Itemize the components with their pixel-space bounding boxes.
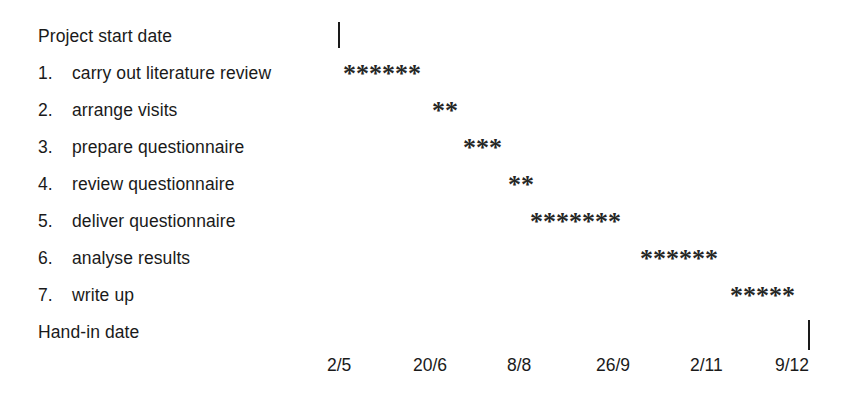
axis-tick-label-2: 20/6 bbox=[413, 352, 447, 378]
task-row-7: 7. write up ***** bbox=[0, 277, 859, 314]
task-bar-3: *** bbox=[463, 129, 502, 166]
task-label-3: prepare questionnaire bbox=[72, 129, 244, 166]
task-number-2: 2. bbox=[38, 92, 53, 129]
task-label-6: analyse results bbox=[72, 240, 190, 277]
axis-tick-label-1: 2/5 bbox=[327, 352, 351, 378]
hand-in-tick-icon bbox=[808, 320, 810, 350]
task-number-7: 7. bbox=[38, 277, 53, 314]
task-bar-1: ****** bbox=[343, 55, 421, 92]
task-bar-2: ** bbox=[432, 92, 458, 129]
hand-in-date-label: Hand-in date bbox=[38, 314, 139, 351]
task-row-6: 6. analyse results ****** bbox=[0, 240, 859, 277]
task-label-2: arrange visits bbox=[72, 92, 177, 129]
axis-tick-label-3: 8/8 bbox=[507, 352, 531, 378]
task-number-3: 3. bbox=[38, 129, 53, 166]
axis-tick-label-5: 2/11 bbox=[690, 352, 723, 378]
task-bar-5: ******* bbox=[530, 203, 621, 240]
task-row-5: 5. deliver questionnaire ******* bbox=[0, 203, 859, 240]
project-start-tick-icon bbox=[338, 22, 340, 48]
axis-tick-label-4: 26/9 bbox=[596, 352, 630, 378]
task-number-5: 5. bbox=[38, 203, 53, 240]
task-label-7: write up bbox=[72, 277, 134, 314]
task-label-1: carry out literature review bbox=[72, 55, 271, 92]
task-number-6: 6. bbox=[38, 240, 53, 277]
task-label-5: deliver questionnaire bbox=[72, 203, 236, 240]
task-label-4: review questionnaire bbox=[72, 166, 235, 203]
axis-tick-label-6: 9/12 bbox=[775, 352, 809, 378]
gantt-chart: Project start date 1. carry out literatu… bbox=[0, 0, 859, 400]
project-start-date-label: Project start date bbox=[38, 18, 172, 55]
task-row-1: 1. carry out literature review ****** bbox=[0, 55, 859, 92]
row-project-start: Project start date bbox=[0, 18, 859, 55]
task-number-4: 4. bbox=[38, 166, 53, 203]
task-bar-4: ** bbox=[508, 166, 534, 203]
row-hand-in: Hand-in date bbox=[0, 314, 859, 351]
task-number-1: 1. bbox=[38, 55, 53, 92]
task-bar-6: ****** bbox=[640, 240, 718, 277]
task-row-2: 2. arrange visits ** bbox=[0, 92, 859, 129]
task-bar-7: ***** bbox=[730, 277, 795, 314]
task-row-4: 4. review questionnaire ** bbox=[0, 166, 859, 203]
task-row-3: 3. prepare questionnaire *** bbox=[0, 129, 859, 166]
